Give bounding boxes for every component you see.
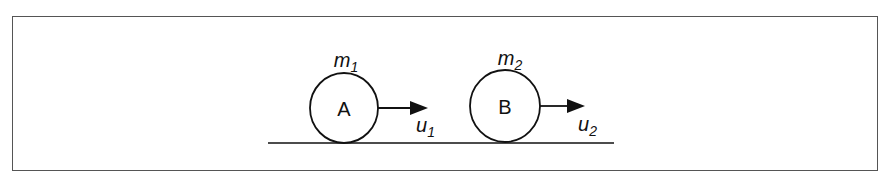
velocity-a-label: u1 <box>416 114 435 140</box>
velocity-b-label: u2 <box>578 113 597 139</box>
mass-a-label: m1 <box>334 49 358 75</box>
velocity-b-arrowhead-icon <box>567 99 585 113</box>
ball-b-label: B <box>498 96 511 118</box>
body-a: A m1 u1 <box>310 49 435 143</box>
body-b: B m2 u2 <box>470 47 597 142</box>
mass-b-label: m2 <box>498 47 523 73</box>
ball-a-label: A <box>337 98 351 120</box>
collision-diagram: A m1 u1 B m2 u2 <box>0 0 892 181</box>
velocity-a-arrowhead-icon <box>410 101 428 115</box>
